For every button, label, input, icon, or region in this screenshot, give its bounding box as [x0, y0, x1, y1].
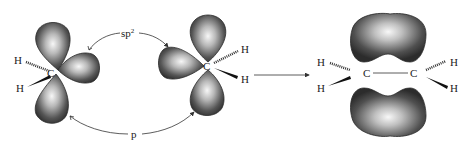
product-h-right-top-label: H	[450, 56, 458, 68]
left-h-bottom-label: H	[16, 82, 24, 94]
middle-p-lobe-bottom	[190, 70, 224, 116]
product-carbon-left-label: C	[363, 67, 370, 79]
wedge-bond-icon	[328, 76, 351, 86]
middle-sp2-lobe-left	[159, 47, 205, 79]
product-h-right-bottom-label: H	[450, 82, 458, 94]
middle-bonds	[214, 51, 238, 79]
middle-carbon-orbitals	[159, 15, 226, 116]
pi-lobe-bottom	[351, 88, 427, 136]
sp2-label: sp2	[121, 27, 135, 39]
middle-h-bottom-label: H	[241, 73, 249, 85]
pi-lobe-top	[351, 13, 427, 62]
hashed-bond-icon	[426, 61, 446, 70]
product-h-left-bottom-label: H	[317, 82, 325, 94]
middle-carbon-label: C	[203, 60, 210, 72]
product-h-left-top-label: H	[317, 56, 325, 68]
left-carbon-orbitals	[35, 23, 99, 124]
hashed-bond-icon	[26, 62, 49, 71]
wedge-bond-icon	[426, 77, 448, 89]
middle-h-top-label: H	[241, 43, 249, 55]
product-carbon-right-label: C	[410, 67, 417, 79]
hashed-bond-icon	[214, 51, 238, 63]
wedge-bond-icon	[214, 68, 238, 79]
middle-p-lobe-top	[190, 15, 226, 62]
p-label: p	[131, 128, 137, 140]
hashed-bond-icon	[330, 63, 350, 70]
product-bonds	[328, 61, 448, 89]
left-h-top-label: H	[14, 54, 22, 66]
left-carbon-label: C	[47, 67, 54, 79]
diagram-svg: C H H C H H sp2 p C C	[0, 0, 469, 152]
pi-bond-diagram: C H H C H H sp2 p C C	[0, 0, 469, 152]
